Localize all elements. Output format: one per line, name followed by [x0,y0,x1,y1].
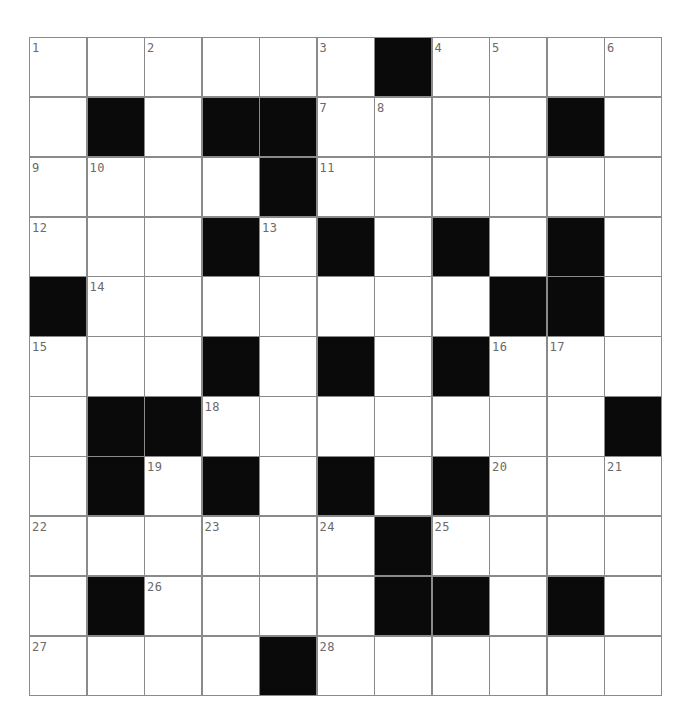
clue-number: 23 [205,521,220,533]
grid-cell[interactable] [203,277,259,335]
grid-cell[interactable] [30,577,86,635]
grid-cell[interactable] [375,397,431,455]
grid-cell[interactable] [318,277,374,335]
grid-cell[interactable]: 4 [433,38,489,96]
grid-cell[interactable] [88,517,144,575]
grid-cell[interactable]: 7 [318,98,374,156]
grid-cell[interactable]: 1 [30,38,86,96]
grid-cell[interactable] [88,218,144,276]
grid-cell[interactable] [30,397,86,455]
grid-cell[interactable] [145,337,201,395]
grid-cell[interactable] [490,158,546,216]
grid-cell[interactable] [88,38,144,96]
grid-cell[interactable] [88,337,144,395]
black-square [260,637,316,695]
grid-cell[interactable]: 19 [145,457,201,515]
grid-cell[interactable] [145,158,201,216]
grid-cell[interactable] [433,98,489,156]
clue-number: 24 [320,521,335,533]
grid-cell[interactable] [605,158,661,216]
grid-cell[interactable]: 6 [605,38,661,96]
grid-cell[interactable] [605,637,661,695]
black-square [145,397,201,455]
grid-cell[interactable]: 20 [490,457,546,515]
grid-cell[interactable]: 5 [490,38,546,96]
grid-cell[interactable] [548,158,604,216]
grid-cell[interactable]: 12 [30,218,86,276]
grid-cell[interactable] [548,637,604,695]
grid-cell[interactable] [433,397,489,455]
grid-cell[interactable] [605,98,661,156]
grid-cell[interactable] [433,158,489,216]
grid-cell[interactable] [433,637,489,695]
black-square [433,577,489,635]
grid-cell[interactable] [490,577,546,635]
grid-cell[interactable] [605,218,661,276]
grid-cell[interactable]: 16 [490,337,546,395]
grid-cell[interactable]: 28 [318,637,374,695]
grid-cell[interactable]: 17 [548,337,604,395]
grid-cell[interactable] [375,158,431,216]
grid-cell[interactable] [605,337,661,395]
grid-cell[interactable]: 9 [30,158,86,216]
grid-cell[interactable]: 13 [260,218,316,276]
grid-cell[interactable]: 3 [318,38,374,96]
grid-cell[interactable]: 18 [203,397,259,455]
grid-cell[interactable] [490,517,546,575]
grid-cell[interactable] [548,457,604,515]
grid-cell[interactable] [490,98,546,156]
grid-cell[interactable] [88,637,144,695]
grid-cell[interactable]: 24 [318,517,374,575]
grid-cell[interactable]: 8 [375,98,431,156]
clue-number: 8 [377,102,385,114]
grid-cell[interactable] [318,397,374,455]
grid-cell[interactable] [375,637,431,695]
grid-cell[interactable] [260,397,316,455]
grid-cell[interactable]: 26 [145,577,201,635]
grid-cell[interactable]: 11 [318,158,374,216]
grid-cell[interactable] [433,277,489,335]
grid-cell[interactable] [260,38,316,96]
grid-cell[interactable] [375,337,431,395]
grid-cell[interactable] [548,38,604,96]
grid-cell[interactable] [30,457,86,515]
grid-cell[interactable] [203,577,259,635]
grid-cell[interactable] [260,337,316,395]
grid-cell[interactable] [260,277,316,335]
grid-cell[interactable]: 14 [88,277,144,335]
black-square [30,277,86,335]
grid-cell[interactable]: 2 [145,38,201,96]
grid-cell[interactable] [203,158,259,216]
grid-cell[interactable] [375,457,431,515]
grid-cell[interactable] [145,277,201,335]
grid-cell[interactable] [203,38,259,96]
grid-cell[interactable] [260,457,316,515]
grid-cell[interactable]: 22 [30,517,86,575]
grid-cell[interactable] [605,577,661,635]
grid-cell[interactable]: 21 [605,457,661,515]
grid-cell[interactable]: 15 [30,337,86,395]
grid-cell[interactable] [145,637,201,695]
grid-cell[interactable] [548,517,604,575]
grid-cell[interactable] [318,577,374,635]
grid-cell[interactable] [490,397,546,455]
grid-cell[interactable] [490,218,546,276]
grid-cell[interactable] [375,218,431,276]
grid-cell[interactable]: 27 [30,637,86,695]
black-square [260,98,316,156]
grid-cell[interactable] [605,517,661,575]
grid-cell[interactable] [145,517,201,575]
grid-cell[interactable] [145,98,201,156]
grid-cell[interactable] [605,277,661,335]
grid-cell[interactable]: 10 [88,158,144,216]
grid-cell[interactable] [260,517,316,575]
grid-cell[interactable] [548,397,604,455]
grid-cell[interactable] [375,277,431,335]
grid-cell[interactable] [260,577,316,635]
grid-cell[interactable]: 23 [203,517,259,575]
grid-cell[interactable]: 25 [433,517,489,575]
grid-cell[interactable] [490,637,546,695]
grid-cell[interactable] [30,98,86,156]
grid-cell[interactable] [203,637,259,695]
grid-cell[interactable] [145,218,201,276]
